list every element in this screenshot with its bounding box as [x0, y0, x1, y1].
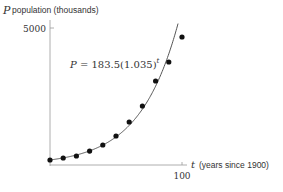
- data-point: [140, 103, 145, 108]
- y-axis-variable: P: [2, 4, 11, 17]
- x-tick-label-100: 100: [173, 171, 190, 181]
- data-point: [179, 34, 184, 39]
- data-point: [61, 155, 66, 160]
- fit-curve: [50, 24, 178, 160]
- data-point: [153, 78, 158, 83]
- x-axis-variable: t: [191, 159, 196, 170]
- chart: P population (thousands) t (years since …: [0, 0, 283, 192]
- data-point: [74, 153, 79, 158]
- x-axis-label: (years since 1900): [199, 160, 269, 170]
- data-point: [87, 148, 92, 153]
- fit-equation-label: P = 183.5(1.035)t: [69, 57, 160, 70]
- data-point: [113, 133, 118, 138]
- y-axis-label: population (thousands): [12, 5, 99, 15]
- y-tick-label-5000: 5000: [23, 24, 46, 34]
- data-point: [100, 142, 105, 147]
- data-point: [127, 119, 132, 124]
- data-point: [166, 59, 171, 64]
- data-point: [47, 157, 52, 162]
